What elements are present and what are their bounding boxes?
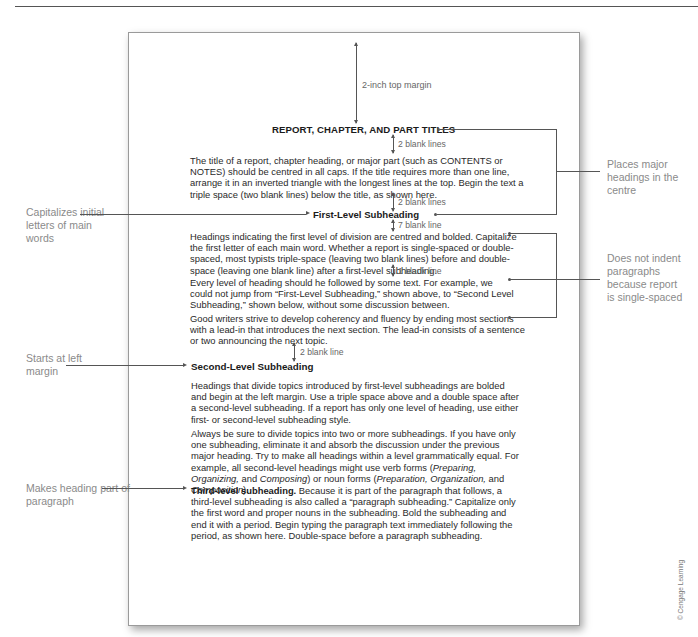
report-title: REPORT, CHAPTER, AND PART TITLES [272, 124, 455, 135]
paragraph-first-level-2: Every level of heading should he followe… [190, 277, 515, 311]
paragraph-first-level-1: Headings indicating the first level of d… [190, 231, 530, 276]
bracket-line [556, 233, 557, 317]
top-rule [15, 6, 698, 7]
arrowhead-icon [306, 211, 310, 215]
top-margin-label: 2-inch top margin [362, 80, 432, 90]
spacing-arrow-icon [393, 265, 394, 276]
leader-line [102, 488, 184, 489]
leader-line [66, 365, 184, 366]
text-run: ) or noun forms ( [307, 473, 376, 484]
spacing-label-before-second-level: 2 blank line [300, 347, 343, 357]
italic-run: Composing [260, 473, 307, 484]
spacing-label-after-first-level: 7 blank line [398, 220, 441, 230]
bracket-line [510, 233, 556, 234]
arrowhead-icon [183, 486, 187, 490]
text-run: and [239, 473, 260, 484]
annotation-places-centre: Places major headings in the centre [607, 158, 687, 197]
bracket-line [510, 279, 600, 280]
leader-line [556, 171, 600, 172]
spacing-arrow-icon [393, 135, 394, 153]
bracket-line [440, 129, 556, 130]
first-level-heading: First-Level Subheading [313, 209, 419, 220]
second-level-heading: Second-Level Subheading [191, 361, 313, 372]
italic-run: Preparation, Organization, [377, 473, 486, 484]
top-margin-arrow-icon [356, 43, 357, 123]
spacing-arrow-icon [393, 220, 394, 231]
annotation-no-indent: Does not indent paragraphs because repor… [607, 252, 685, 304]
bracket-line [437, 214, 557, 215]
third-level-heading: Third-level subheading. [191, 485, 296, 496]
spacing-label-before-first-level: 2 blank lines [398, 197, 446, 207]
paragraph-second-level-1: Headings that divide topics introduced b… [191, 380, 521, 425]
spacing-label-after-title: 2 blank lines [398, 139, 446, 149]
annotation-capitalizes: Capitalizes initial letters of main word… [26, 206, 106, 245]
paragraph-title-rules: The title of a report, chapter heading, … [190, 155, 528, 200]
paragraph-third-level: Third-level subheading. Because it is pa… [191, 485, 521, 541]
copyright-notice: © Cengage Learning [677, 560, 684, 620]
arrowhead-icon [183, 363, 187, 367]
leader-line [80, 214, 306, 215]
paragraph-first-level-3: Good writers strive to develop coherency… [190, 313, 525, 347]
text-run: and [486, 473, 504, 484]
bracket-line [510, 317, 557, 318]
spacing-label-between-paragraphs: 1 blank line [398, 266, 441, 276]
spacing-arrow-icon [294, 343, 295, 361]
annotation-makes-heading: Makes heading part of paragraph [26, 482, 136, 508]
